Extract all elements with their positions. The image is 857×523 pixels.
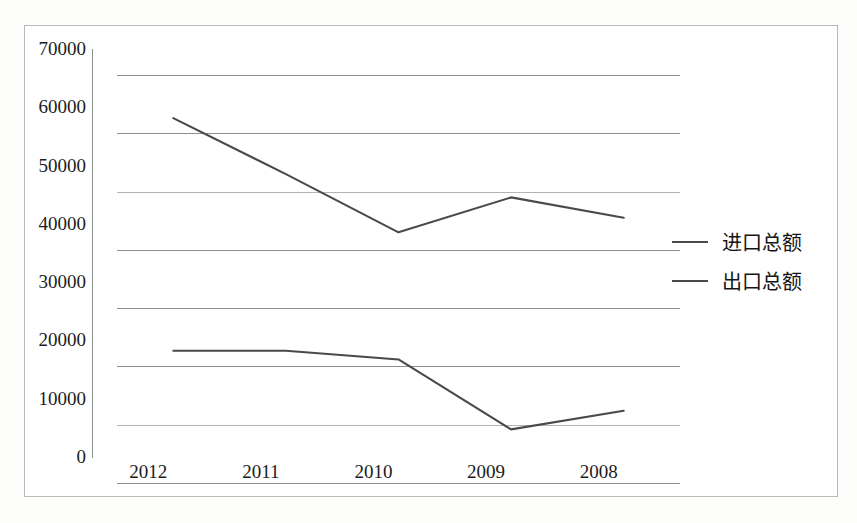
line-series-exports	[173, 351, 623, 430]
chart-legend: 进口总额 出口总额	[672, 222, 822, 300]
series-lines-group	[117, 75, 680, 483]
y-tick-label: 30000	[12, 272, 86, 291]
y-tick-label: 10000	[12, 389, 86, 408]
y-tick-label: 70000	[12, 39, 86, 58]
legend-item-label: 进口总额	[722, 227, 802, 256]
legend-item-label: 出口总额	[722, 266, 802, 295]
y-tick-label: 50000	[12, 156, 86, 175]
y-tick-label: 60000	[12, 97, 86, 116]
x-tick-label: 2011	[242, 462, 279, 481]
y-axis-tick-labels: 700006000050000400003000020000100000	[8, 0, 86, 523]
x-tick-label: 2010	[355, 462, 393, 481]
legend-item-imports: 进口总额	[672, 222, 822, 261]
line-swatch-icon	[672, 280, 708, 282]
x-axis-tick-labels: 20122011201020092008	[92, 462, 655, 492]
y-tick-label: 40000	[12, 214, 86, 233]
line-series-imports	[173, 118, 623, 232]
y-axis-line	[92, 49, 93, 458]
line-swatch-icon	[672, 241, 708, 243]
x-tick-label: 2009	[467, 462, 505, 481]
y-tick-label: 0	[12, 447, 86, 466]
plot-area	[117, 75, 680, 483]
x-tick-label: 2008	[580, 462, 618, 481]
x-tick-label: 2012	[129, 462, 167, 481]
y-tick-label: 20000	[12, 330, 86, 349]
legend-item-exports: 出口总额	[672, 261, 822, 300]
